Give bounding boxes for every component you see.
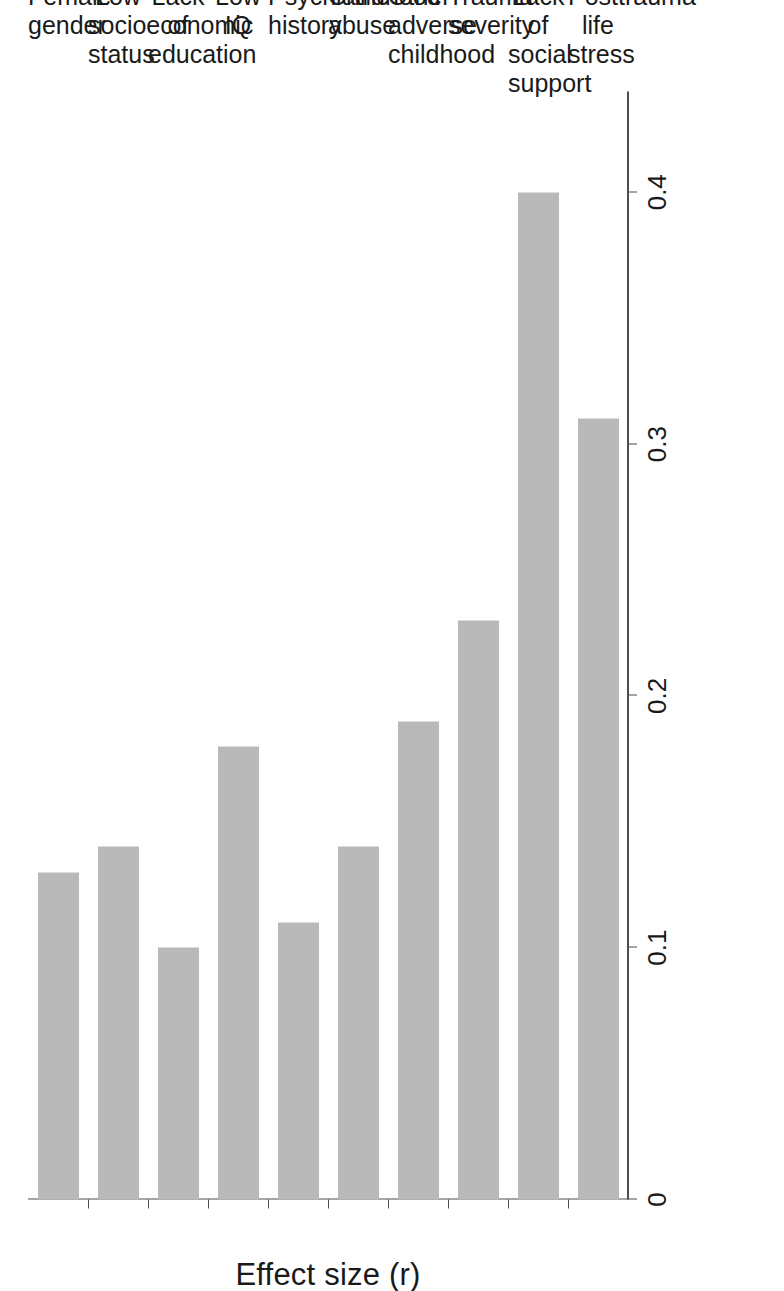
bar[interactable]: [458, 620, 499, 1199]
category-axis-labels: FemalegenderLowsocioeconomicstatusLack o…: [28, 0, 628, 121]
category-axis-tick: [88, 1199, 89, 1208]
category-label: Lack ofeducation: [148, 0, 208, 101]
bar-row: [328, 846, 388, 1199]
category-label-line: Low: [88, 0, 148, 10]
category-label: Other adversechildhood: [388, 0, 448, 101]
bar[interactable]: [518, 192, 559, 1199]
category-label-line: Low IQ: [208, 0, 268, 39]
category-label: Traumaseverity: [448, 0, 508, 101]
bar-row: [208, 746, 268, 1199]
category-axis-tick: [208, 1199, 209, 1208]
value-axis-tick-label: 0.1: [644, 907, 670, 987]
rotated-chart-canvas: Effect size (r) 00.10.20.30.4 Femalegend…: [0, 0, 784, 1291]
category-label-line: support: [508, 68, 568, 97]
category-label: Posttraumalife stress: [568, 0, 628, 101]
plot-area: [28, 91, 628, 1199]
category-label: Psychiatrichistory: [268, 0, 328, 101]
bar-row: [268, 922, 328, 1199]
category-label-line: Psychiatric: [268, 0, 328, 10]
category-label: Lack of socialsupport: [508, 0, 568, 101]
bar[interactable]: [338, 846, 379, 1199]
category-axis-tick: [388, 1199, 389, 1208]
category-label-line: socioeconomic: [88, 10, 148, 39]
category-label-line: Trauma: [448, 0, 508, 10]
bar[interactable]: [158, 947, 199, 1199]
bar[interactable]: [278, 922, 319, 1199]
bar-row: [88, 846, 148, 1199]
category-axis-tick: [568, 1199, 569, 1208]
value-axis-tick: [628, 191, 637, 192]
category-label-line: Posttrauma: [568, 0, 628, 10]
bar[interactable]: [398, 721, 439, 1199]
category-axis-tick: [268, 1199, 269, 1208]
value-axis-tick-label: 0.3: [644, 404, 670, 484]
category-label-line: childhood: [388, 39, 448, 68]
category-label-line: Other adverse: [388, 0, 448, 39]
bar-row: [388, 721, 448, 1199]
category-label-line: Female: [28, 0, 88, 10]
value-axis-tick: [628, 694, 637, 695]
value-axis-title: Effect size (r): [28, 1257, 628, 1291]
value-axis-spine: [628, 91, 629, 1199]
category-label-line: Lack of social: [508, 0, 568, 68]
value-axis-tick-label: 0: [644, 1159, 670, 1239]
category-label-line: life stress: [568, 10, 628, 68]
value-axis-tick-label: 0.2: [644, 655, 670, 735]
category-axis-tick: [328, 1199, 329, 1208]
category-label-line: severity: [448, 10, 508, 39]
category-axis-tick: [508, 1199, 509, 1208]
category-label: Low IQ: [208, 0, 268, 101]
bar-row: [28, 872, 88, 1199]
bar[interactable]: [578, 418, 619, 1199]
category-axis-tick: [448, 1199, 449, 1208]
value-axis-tick: [628, 946, 637, 947]
figure-root: Effect size (r) 00.10.20.30.4 Femalegend…: [0, 0, 784, 1291]
bar-row: [148, 947, 208, 1199]
bar-row: [568, 418, 628, 1199]
category-label-line: history: [268, 10, 328, 39]
category-label-line: abuse: [328, 10, 388, 39]
category-label: Childhoodabuse: [328, 0, 388, 101]
value-axis-tick: [628, 443, 637, 444]
category-label: Femalegender: [28, 0, 88, 101]
category-label-line: Lack of: [148, 0, 208, 39]
bar[interactable]: [38, 872, 79, 1199]
category-label-line: status: [88, 39, 148, 68]
value-axis-tick: [628, 1198, 637, 1199]
category-axis-tick: [148, 1199, 149, 1208]
category-label-line: Childhood: [328, 0, 388, 10]
category-label-line: education: [148, 39, 208, 68]
bar-row: [448, 620, 508, 1199]
category-label: Lowsocioeconomicstatus: [88, 0, 148, 101]
bar-row: [508, 192, 568, 1199]
bar[interactable]: [98, 846, 139, 1199]
category-label-line: gender: [28, 10, 88, 39]
value-axis-tick-label: 0.4: [644, 152, 670, 232]
bar[interactable]: [218, 746, 259, 1199]
